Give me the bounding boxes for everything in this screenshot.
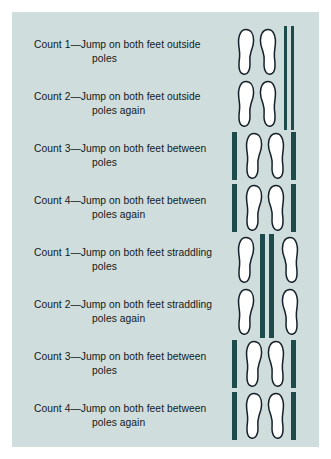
instruction-text: Count 3—Jump on both feet betweenpoles bbox=[12, 142, 230, 170]
instruction-text: Count 1—Jump on both feet outsidepoles bbox=[12, 38, 230, 66]
footprint-pole-diagram bbox=[230, 130, 316, 182]
instruction-text-line1: Count 4—Jump on both feet between bbox=[34, 402, 230, 416]
instruction-row: Count 4—Jump on both feet betweenpoles a… bbox=[12, 182, 319, 234]
footprint-icon bbox=[244, 184, 264, 232]
footprint-icon bbox=[236, 288, 256, 336]
instruction-text-line2: poles bbox=[34, 52, 230, 66]
footprint-icon bbox=[258, 28, 278, 76]
instruction-text-line1: Count 1—Jump on both feet outside bbox=[34, 38, 230, 52]
pole-icon bbox=[291, 78, 294, 130]
instruction-text: Count 1—Jump on both feet straddlingpole… bbox=[12, 246, 230, 274]
footprint-pole-diagram bbox=[230, 26, 316, 78]
pole-icon bbox=[260, 286, 265, 338]
instruction-row: Count 1—Jump on both feet outsidepoles bbox=[12, 26, 319, 78]
instruction-row: Count 2—Jump on both feet straddlingpole… bbox=[12, 286, 319, 338]
instruction-row: Count 2—Jump on both feet outsidepoles a… bbox=[12, 78, 319, 130]
pole-icon bbox=[260, 234, 265, 286]
instruction-text: Count 2—Jump on both feet straddlingpole… bbox=[12, 298, 230, 326]
instruction-text: Count 3—Jump on both feet betweenpoles bbox=[12, 350, 230, 378]
footprint-icon bbox=[258, 80, 278, 128]
instruction-text-line1: Count 4—Jump on both feet between bbox=[34, 194, 230, 208]
instruction-text-line2: poles bbox=[34, 260, 230, 274]
pole-icon bbox=[284, 26, 287, 78]
instruction-panel: Count 1—Jump on both feet outsidepolesCo… bbox=[12, 12, 319, 447]
footprint-icon bbox=[244, 392, 264, 440]
footprint-icon bbox=[280, 236, 300, 284]
footprint-icon bbox=[266, 392, 286, 440]
pole-icon bbox=[291, 340, 296, 388]
instruction-text-line2: poles again bbox=[34, 416, 230, 430]
instruction-text-line1: Count 3—Jump on both feet between bbox=[34, 350, 230, 364]
pole-icon bbox=[284, 78, 287, 130]
footprint-icon bbox=[244, 132, 264, 180]
pole-icon bbox=[291, 132, 296, 180]
instruction-text-line2: poles again bbox=[34, 104, 230, 118]
instruction-text-line1: Count 2—Jump on both feet straddling bbox=[34, 298, 230, 312]
instruction-text: Count 2—Jump on both feet outsidepoles a… bbox=[12, 90, 230, 118]
pole-icon bbox=[291, 26, 294, 78]
instruction-text: Count 4—Jump on both feet betweenpoles a… bbox=[12, 402, 230, 430]
pole-icon bbox=[291, 184, 296, 232]
pole-icon bbox=[269, 286, 274, 338]
instruction-row: Count 1—Jump on both feet straddlingpole… bbox=[12, 234, 319, 286]
pole-icon bbox=[269, 234, 274, 286]
footprint-icon bbox=[236, 80, 256, 128]
pole-icon bbox=[232, 340, 237, 388]
footprint-icon bbox=[280, 288, 300, 336]
footprint-icon bbox=[266, 340, 286, 388]
pole-icon bbox=[232, 184, 237, 232]
instruction-text-line2: poles again bbox=[34, 208, 230, 222]
instruction-text-line2: poles bbox=[34, 364, 230, 378]
instruction-row: Count 3—Jump on both feet betweenpoles bbox=[12, 130, 319, 182]
instruction-text-line2: poles again bbox=[34, 312, 230, 326]
footprint-icon bbox=[266, 132, 286, 180]
footprint-icon bbox=[266, 184, 286, 232]
footprint-icon bbox=[236, 28, 256, 76]
instruction-row: Count 4—Jump on both feet betweenpoles a… bbox=[12, 390, 319, 442]
footprint-icon bbox=[244, 340, 264, 388]
instruction-row: Count 3—Jump on both feet betweenpoles bbox=[12, 338, 319, 390]
instruction-text: Count 4—Jump on both feet betweenpoles a… bbox=[12, 194, 230, 222]
footprint-pole-diagram bbox=[230, 390, 316, 442]
footprint-pole-diagram bbox=[230, 182, 316, 234]
footprint-pole-diagram bbox=[230, 286, 316, 338]
footprint-pole-diagram bbox=[230, 234, 316, 286]
pole-icon bbox=[232, 132, 237, 180]
instruction-text-line1: Count 2—Jump on both feet outside bbox=[34, 90, 230, 104]
footprint-pole-diagram bbox=[230, 78, 316, 130]
pole-icon bbox=[291, 392, 296, 440]
instruction-text-line1: Count 1—Jump on both feet straddling bbox=[34, 246, 230, 260]
instruction-text-line1: Count 3—Jump on both feet between bbox=[34, 142, 230, 156]
instruction-row-list: Count 1—Jump on both feet outsidepolesCo… bbox=[12, 12, 319, 447]
footprint-pole-diagram bbox=[230, 338, 316, 390]
instruction-text-line2: poles bbox=[34, 156, 230, 170]
footprint-icon bbox=[236, 236, 256, 284]
pole-icon bbox=[232, 392, 237, 440]
